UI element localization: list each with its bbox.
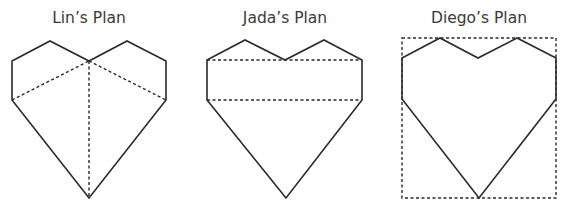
heart-outline [402,38,556,198]
bounding-rectangle [402,38,556,198]
jada-plan-heart [207,40,362,198]
cut-line [12,61,89,100]
diego-plan-heart [402,38,556,198]
heart-outline [12,41,166,198]
lin-plan-heart [12,41,166,198]
cut-line [89,61,166,100]
heart-plans-diagram [0,0,565,211]
heart-outline [207,40,362,198]
